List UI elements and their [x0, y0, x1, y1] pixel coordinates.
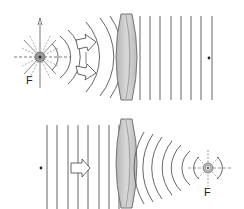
- bottom-marker-dot: [40, 167, 43, 170]
- top-lens: [116, 14, 137, 100]
- lens-diagram: F F: [0, 0, 244, 209]
- top-panel: [14, 14, 212, 100]
- top-marker-dot: [208, 57, 211, 60]
- top-focus-source-icon: [14, 18, 70, 88]
- bottom-arrow-icon: [71, 159, 90, 177]
- bottom-focus-label: F: [204, 186, 211, 198]
- top-plane-wavefronts: [140, 16, 212, 100]
- bottom-focus-point-icon: [188, 150, 232, 186]
- top-diverging-wavefronts: [52, 16, 123, 98]
- top-arrow-icon-2: [76, 64, 96, 80]
- top-arrow-icon-1: [76, 34, 96, 51]
- top-focus-label: F: [26, 74, 33, 86]
- diagram-canvas: [0, 0, 244, 209]
